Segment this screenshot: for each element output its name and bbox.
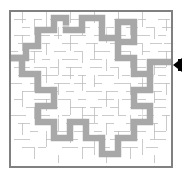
maze-figure [0,0,193,175]
canvas-background [0,0,193,175]
maze-svg [0,0,193,175]
exit-arrow-tail-icon [178,59,182,71]
